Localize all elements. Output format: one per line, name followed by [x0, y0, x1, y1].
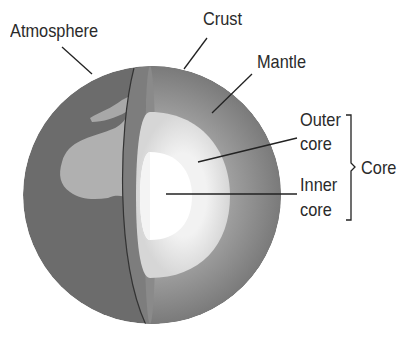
earth-diagram [0, 0, 416, 339]
label-inner-core-line2: core [300, 200, 332, 220]
label-core: Core [361, 158, 396, 178]
label-outer-core-line2: core [300, 134, 332, 154]
label-inner-core-line1: Inner [300, 175, 337, 195]
label-atmosphere: Atmosphere [10, 21, 98, 41]
label-mantle: Mantle [257, 52, 306, 72]
label-outer-core-line1: Outer [300, 110, 341, 130]
label-crust: Crust [203, 9, 242, 29]
